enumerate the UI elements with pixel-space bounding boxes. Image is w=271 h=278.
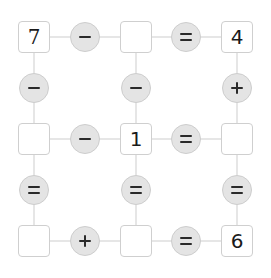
operator-r3c4 bbox=[222, 175, 252, 205]
cell-r2c2: 1 bbox=[120, 123, 152, 155]
operator-r1c2 bbox=[121, 73, 151, 103]
minus-icon bbox=[26, 80, 42, 96]
plus-icon bbox=[77, 233, 93, 249]
equals-icon bbox=[178, 131, 194, 147]
cell-r4c2[interactable] bbox=[120, 225, 152, 257]
operator-r1c0 bbox=[19, 73, 49, 103]
puzzle-grid: 7 4 1 bbox=[0, 0, 271, 278]
operator-r2c3 bbox=[171, 124, 201, 154]
cell-r2c4[interactable] bbox=[221, 123, 253, 155]
operator-r0c3 bbox=[171, 22, 201, 52]
equals-icon bbox=[229, 182, 245, 198]
plus-icon bbox=[229, 80, 245, 96]
minus-icon bbox=[77, 29, 93, 45]
operator-r0c1 bbox=[70, 22, 100, 52]
cell-r0c4: 4 bbox=[221, 21, 253, 53]
cell-r0c0: 7 bbox=[18, 21, 50, 53]
cell-r2c0[interactable] bbox=[18, 123, 50, 155]
equals-icon bbox=[128, 182, 144, 198]
minus-icon bbox=[128, 80, 144, 96]
equals-icon bbox=[178, 29, 194, 45]
cell-r4c4: 6 bbox=[221, 225, 253, 257]
operator-r4c3 bbox=[171, 226, 201, 256]
operator-r2c1 bbox=[70, 124, 100, 154]
operator-r3c2 bbox=[121, 175, 151, 205]
minus-icon bbox=[77, 131, 93, 147]
cell-r0c2[interactable] bbox=[120, 21, 152, 53]
operator-r4c1 bbox=[70, 226, 100, 256]
equals-icon bbox=[178, 233, 194, 249]
equals-icon bbox=[26, 182, 42, 198]
cell-r4c0[interactable] bbox=[18, 225, 50, 257]
operator-r3c0 bbox=[19, 175, 49, 205]
operator-r1c4 bbox=[222, 73, 252, 103]
